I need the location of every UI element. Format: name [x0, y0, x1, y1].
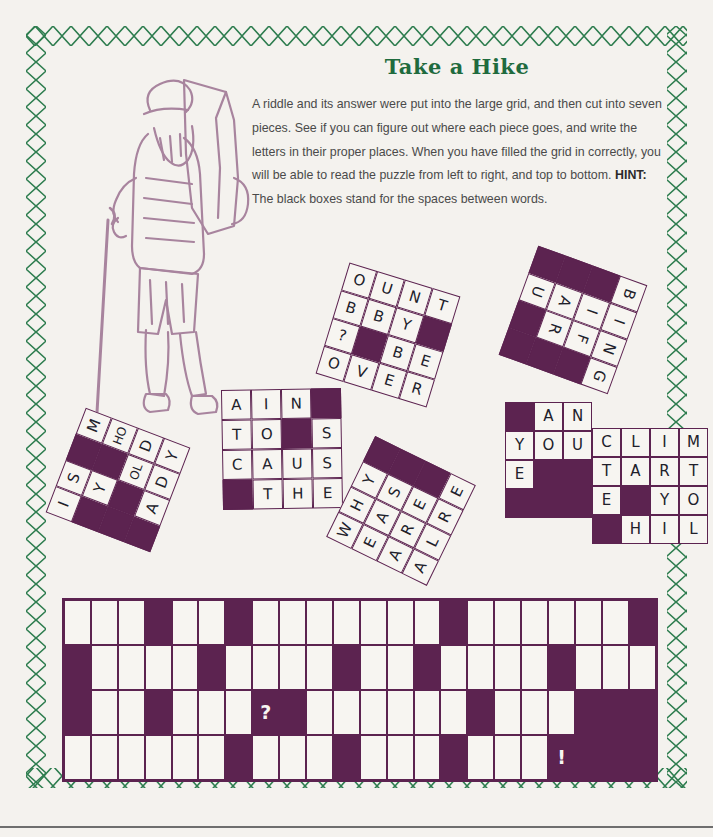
piece-cell-letter: T — [221, 420, 252, 451]
grid-cell-blank[interactable] — [252, 735, 279, 780]
grid-cell-blank[interactable] — [494, 735, 521, 780]
grid-cell-blank[interactable] — [521, 600, 548, 645]
piece-cell-letter: Y — [650, 486, 679, 515]
grid-cell-black — [198, 645, 225, 690]
grid-cell-blank[interactable] — [279, 735, 306, 780]
piece-bing-if-ar-u[interactable]: BINGIFARU — [499, 246, 648, 395]
grid-cell-black — [629, 735, 656, 780]
grid-cell-blank[interactable] — [64, 600, 91, 645]
grid-cell-blank[interactable] — [252, 645, 279, 690]
grid-cell-blank[interactable] — [467, 600, 494, 645]
grid-cell-blank[interactable] — [494, 690, 521, 735]
grid-cell-blank[interactable] — [333, 690, 360, 735]
grid-cell-blank[interactable] — [118, 645, 145, 690]
grid-cell-blank[interactable] — [198, 735, 225, 780]
piece-cell-letter: S — [312, 448, 343, 479]
grid-cell-blank[interactable] — [118, 690, 145, 735]
grid-cell-blank[interactable] — [91, 735, 118, 780]
grid-cell-blank[interactable] — [602, 645, 629, 690]
grid-cell-blank[interactable] — [172, 690, 199, 735]
grid-cell-blank[interactable] — [360, 690, 387, 735]
grid-cell-blank[interactable] — [333, 600, 360, 645]
grid-cell-black — [225, 600, 252, 645]
page-title: Take a Hike — [252, 54, 662, 79]
piece-cell-letter: C — [592, 428, 621, 457]
piece-cell-letter: O — [534, 431, 563, 460]
grid-cell-blank[interactable] — [440, 690, 467, 735]
grid-cell-black — [64, 645, 91, 690]
instructions-body-2: The black boxes stand for the spaces bet… — [252, 192, 547, 206]
piece-cell-letter: I — [650, 428, 679, 457]
grid-cell-blank[interactable] — [521, 690, 548, 735]
piece-cell-blank — [621, 486, 650, 515]
grid-cell-blank[interactable] — [198, 690, 225, 735]
grid-cell-blank[interactable] — [387, 735, 414, 780]
piece-ain-to-s-caus-the[interactable]: AINTOSCAUSTHE — [221, 388, 343, 510]
piece-cell-blank — [534, 489, 563, 518]
grid-cell-black — [602, 735, 629, 780]
grid-cell-blank[interactable] — [279, 645, 306, 690]
grid-cell-blank[interactable] — [225, 645, 252, 690]
answer-grid[interactable]: ?! — [62, 598, 658, 782]
grid-cell-blank[interactable] — [360, 735, 387, 780]
grid-cell-blank[interactable] — [467, 645, 494, 690]
grid-cell-black — [64, 690, 91, 735]
grid-cell-blank[interactable] — [91, 600, 118, 645]
grid-cell-punctuation: ! — [548, 735, 575, 780]
piece-cell-letter: U — [282, 448, 313, 479]
grid-cell-blank[interactable] — [360, 600, 387, 645]
piece-cell-blank — [563, 489, 592, 518]
grid-cell-black — [440, 735, 467, 780]
grid-cell-blank[interactable] — [306, 645, 333, 690]
grid-cell-blank[interactable] — [306, 600, 333, 645]
grid-cell-blank[interactable] — [172, 645, 199, 690]
piece-an-you-e[interactable]: ANYOUE — [505, 402, 592, 518]
grid-cell-blank[interactable] — [306, 735, 333, 780]
piece-clim-tart-e-yo-hil[interactable]: CLIMTARTEYOHIL — [592, 428, 708, 544]
grid-cell-blank[interactable] — [548, 600, 575, 645]
grid-cell-blank[interactable] — [414, 735, 441, 780]
grid-cell-blank[interactable] — [440, 645, 467, 690]
grid-cell-blank[interactable] — [414, 600, 441, 645]
piece-why-eas-are-alre[interactable]: WHYEASAREALRE — [326, 436, 476, 586]
grid-cell-blank[interactable] — [602, 600, 629, 645]
piece-cell-letter: C — [222, 450, 253, 481]
grid-cell-blank[interactable] — [252, 600, 279, 645]
grid-cell-blank[interactable] — [467, 735, 494, 780]
grid-cell-blank[interactable] — [306, 690, 333, 735]
grid-cell-blank[interactable] — [145, 645, 172, 690]
grid-cell-blank[interactable] — [91, 690, 118, 735]
piece-cell-letter: A — [534, 402, 563, 431]
grid-cell-blank[interactable] — [225, 690, 252, 735]
grid-cell-blank[interactable] — [360, 645, 387, 690]
piece-cell-letter: L — [621, 428, 650, 457]
piece-cell-blank — [505, 402, 534, 431]
grid-cell-blank[interactable] — [521, 645, 548, 690]
grid-cell-blank[interactable] — [118, 600, 145, 645]
grid-cell-blank[interactable] — [387, 645, 414, 690]
grid-cell-blank[interactable] — [64, 735, 91, 780]
piece-cell-blank — [281, 418, 312, 449]
grid-cell-blank[interactable] — [575, 645, 602, 690]
grid-cell-blank[interactable] — [387, 600, 414, 645]
grid-cell-blank[interactable] — [494, 645, 521, 690]
grid-cell-blank[interactable] — [198, 600, 225, 645]
grid-cell-blank[interactable] — [548, 690, 575, 735]
grid-cell-blank[interactable] — [494, 600, 521, 645]
piece-cell-letter: I — [650, 515, 679, 544]
piece-cell-letter: T — [592, 457, 621, 486]
grid-cell-black — [145, 600, 172, 645]
grid-cell-blank[interactable] — [172, 735, 199, 780]
grid-cell-blank[interactable] — [521, 735, 548, 780]
piece-ount-bby-be-over[interactable]: OUNTBBY?BEOVER — [316, 263, 461, 408]
piece-cell-letter: O — [251, 419, 282, 450]
grid-cell-blank[interactable] — [575, 600, 602, 645]
grid-cell-blank[interactable] — [629, 645, 656, 690]
grid-cell-blank[interactable] — [91, 645, 118, 690]
grid-cell-blank[interactable] — [414, 690, 441, 735]
grid-cell-blank[interactable] — [145, 735, 172, 780]
grid-cell-blank[interactable] — [172, 600, 199, 645]
grid-cell-blank[interactable] — [118, 735, 145, 780]
grid-cell-blank[interactable] — [387, 690, 414, 735]
grid-cell-blank[interactable] — [279, 600, 306, 645]
